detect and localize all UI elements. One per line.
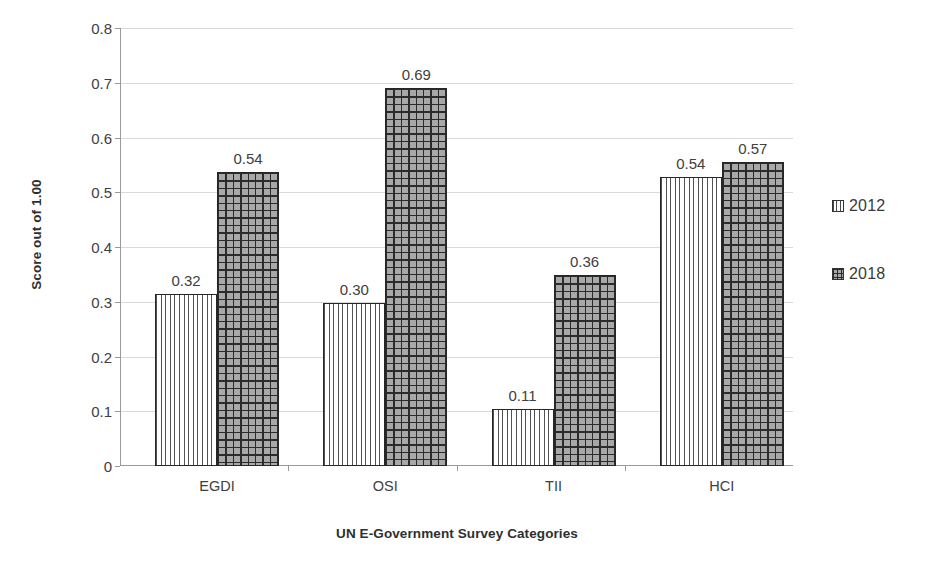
plot-area: 0.320.540.300.690.110.360.540.57 (120, 28, 793, 466)
gridline (120, 83, 793, 84)
bar-HCI-2018 (722, 162, 784, 466)
y-axis-title: Score out of 1.00 (29, 125, 44, 345)
bar-value-label: 0.69 (402, 66, 431, 83)
legend-item-2018[interactable]: 2018 (832, 262, 922, 286)
y-axis-tick-label: 0.2 (68, 348, 112, 365)
y-axis-tick-label: 0.3 (68, 293, 112, 310)
bar-OSI-2018 (385, 88, 447, 466)
bar-value-label: 0.36 (570, 253, 599, 270)
x-axis-category-label-EGDI: EGDI (199, 478, 234, 494)
y-axis-tick-label: 0.1 (68, 403, 112, 420)
y-axis-tick-mark (115, 466, 120, 467)
category-tick (288, 466, 289, 471)
bar-TII-2018 (554, 275, 616, 466)
x-axis-title: UN E-Government Survey Categories (120, 526, 794, 541)
legend-label: 2012 (849, 197, 885, 215)
bar-value-label: 0.30 (340, 281, 369, 298)
y-axis-tick-label: 0.8 (68, 20, 112, 37)
category-tick (457, 466, 458, 471)
x-axis-category-label-TII: TII (545, 478, 562, 494)
bar-EGDI-2018 (217, 172, 279, 466)
y-axis-tick-label: 0.7 (68, 74, 112, 91)
x-axis-category-labels: EGDIOSITIIHCI (120, 478, 793, 502)
bar-EGDI-2012 (155, 294, 217, 466)
bar-value-label: 0.32 (171, 272, 200, 289)
bar-TII-2012 (492, 409, 554, 466)
y-axis-tick-label: 0 (68, 458, 112, 475)
y-axis-tick-label: 0.4 (68, 239, 112, 256)
y-axis-tick-label: 0.6 (68, 129, 112, 146)
gridline (120, 138, 793, 139)
legend: 20122018 (832, 194, 922, 330)
bar-value-label: 0.54 (233, 150, 262, 167)
vertical-lines-swatch (832, 200, 844, 212)
crosshatch-grid-swatch (832, 268, 844, 280)
x-axis-category-label-OSI: OSI (373, 478, 398, 494)
bar-value-label: 0.11 (508, 387, 536, 404)
y-axis-tick-label: 0.5 (68, 184, 112, 201)
y-axis-tick-labels: 0.80.70.60.50.40.30.20.10 (62, 28, 112, 466)
bar-OSI-2012 (323, 303, 385, 466)
gridline (120, 28, 793, 29)
bar-value-label: 0.54 (676, 155, 705, 172)
legend-label: 2018 (849, 265, 885, 283)
bar-value-label: 0.57 (738, 140, 767, 157)
category-tick (625, 466, 626, 471)
x-axis-category-label-HCI: HCI (709, 478, 734, 494)
y-axis-line (120, 28, 121, 466)
bar-chart: Score out of 1.00 0.80.70.60.50.40.30.20… (0, 0, 926, 562)
bar-HCI-2012 (660, 177, 722, 466)
legend-item-2012[interactable]: 2012 (832, 194, 922, 218)
